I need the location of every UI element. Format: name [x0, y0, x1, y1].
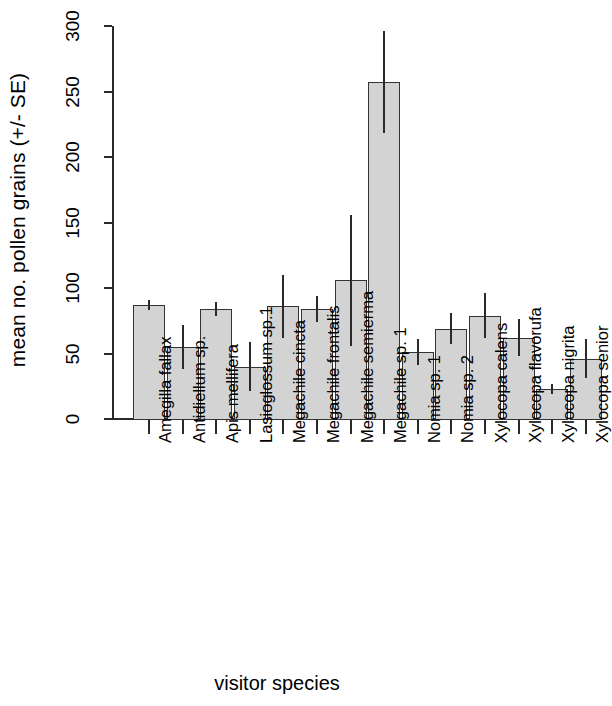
x-axis-category-label: Megachile sp. 1 — [391, 327, 410, 443]
error-bar — [551, 384, 553, 394]
error-bar — [249, 342, 251, 392]
x-axis-title: visitor species — [0, 672, 554, 695]
x-axis-tick — [282, 420, 284, 434]
y-axis-line — [112, 26, 114, 420]
y-axis-tick — [104, 287, 112, 289]
x-axis-tick — [551, 420, 553, 434]
error-bar — [585, 339, 587, 378]
error-bar — [450, 313, 452, 344]
x-axis-category-label: Nomia sp. 2 — [458, 355, 477, 443]
x-axis-category-label: Xylocopa nigrita — [559, 326, 578, 443]
error-bar — [282, 275, 284, 338]
x-axis-category-label: Megachile frontalis — [324, 305, 343, 443]
error-bar — [383, 31, 385, 133]
x-axis-category-label: Apis mellifera — [223, 344, 242, 443]
x-axis-category-label: Xylocopa flavorufa — [526, 307, 545, 443]
y-axis-tick-label: 200 — [62, 134, 84, 180]
x-axis-tick — [215, 420, 217, 434]
x-axis-category-label: Antidiellum sp. — [190, 336, 209, 443]
x-axis-category-label: Xylocopa senior — [593, 326, 612, 443]
x-axis-tick — [249, 420, 251, 434]
x-axis-category-label: Megachile semierma — [358, 291, 377, 443]
x-axis-tick — [417, 420, 419, 434]
x-axis-category-label: Nomia sp. 1 — [425, 355, 444, 443]
x-axis-tick — [450, 420, 452, 434]
x-axis-tick — [148, 420, 150, 434]
x-axis-tick — [316, 420, 318, 434]
y-axis-tick — [104, 91, 112, 93]
y-axis-tick-label: 50 — [62, 331, 84, 377]
y-axis-tick — [104, 156, 112, 158]
y-axis-tick — [104, 222, 112, 224]
x-axis-tick — [182, 420, 184, 434]
x-axis-tick — [518, 420, 520, 434]
y-axis-tick — [104, 25, 112, 27]
y-axis-tick — [104, 418, 112, 420]
y-axis-tick-label: 150 — [62, 200, 84, 246]
y-axis-tick-label: 250 — [62, 69, 84, 115]
x-axis-category-label: Xylocopa calens — [492, 323, 511, 443]
error-bar — [316, 296, 318, 322]
y-axis-tick-label: 100 — [62, 265, 84, 311]
x-axis-category-label: Lasioglossum sp.1 — [257, 306, 276, 443]
x-axis-tick — [383, 420, 385, 434]
error-bar — [417, 339, 419, 365]
x-axis-tick — [350, 420, 352, 434]
error-bar — [518, 319, 520, 356]
x-axis-tick — [585, 420, 587, 434]
error-bar — [484, 293, 486, 338]
y-axis-tick-label: 300 — [62, 3, 84, 49]
error-bar — [215, 302, 217, 315]
error-bar — [350, 215, 352, 346]
error-bar — [182, 325, 184, 370]
y-axis-tick — [104, 353, 112, 355]
x-axis-category-label: Megachile cincta — [290, 320, 309, 443]
x-axis-category-label: Amegilla fallax — [156, 337, 175, 443]
y-axis-tick-label: 0 — [62, 396, 84, 442]
x-axis-tick — [484, 420, 486, 434]
error-bar — [148, 300, 150, 310]
